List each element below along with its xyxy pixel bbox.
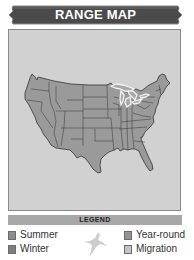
legend-title: LEGEND [8, 215, 182, 225]
legend-label-summer: Summer [20, 229, 58, 240]
map-panel [8, 29, 181, 211]
swatch-winter [8, 245, 16, 254]
legend-label-winter: Winter [20, 243, 49, 254]
us-landmass [25, 74, 170, 173]
legend-label-year-round: Year-round [136, 229, 185, 240]
swatch-migration [124, 245, 132, 254]
swatch-year-round [124, 231, 132, 240]
legend-label-migration: Migration [136, 243, 177, 254]
swatch-summer [8, 231, 16, 240]
bird-silhouette-icon [80, 230, 110, 258]
